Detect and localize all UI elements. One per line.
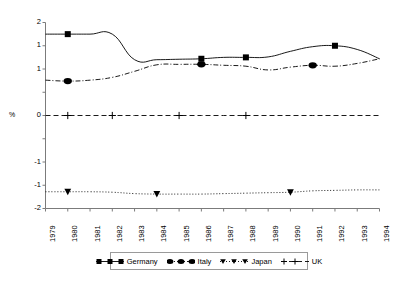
chart-figure: % 2110-1-1-2 197919801981198219831984198… — [0, 0, 409, 284]
x-axis-tick-label: 1983 — [138, 225, 146, 242]
y-axis-tick-label: -1 — [20, 181, 41, 189]
legend-entry-japan: Japan — [220, 257, 271, 266]
series-marker-italy — [197, 61, 205, 67]
x-axis-tick-label: 1980 — [71, 225, 79, 242]
legend-marker-circle-icon — [167, 257, 195, 266]
series-line-japan — [46, 190, 380, 194]
legend-marker-plus-icon — [281, 257, 309, 266]
legend-entry-italy: Italy — [167, 257, 212, 266]
y-axis-tick-label: 2 — [20, 18, 41, 26]
legend-key-graphic — [281, 257, 309, 266]
x-axis-tick-label: 1979 — [49, 225, 57, 242]
series-marker-germany — [332, 43, 338, 49]
legend-entry-uk: UK — [281, 257, 322, 266]
x-axis-tick-label: 1984 — [160, 225, 168, 242]
x-axis-tick-label: 1988 — [249, 225, 257, 242]
x-axis-tick-label: 1990 — [294, 225, 302, 242]
x-axis-tick-label: 1982 — [116, 225, 124, 242]
legend-label: UK — [311, 257, 322, 266]
legend-label: Italy — [197, 257, 212, 266]
x-axis-tick-label: 1987 — [227, 225, 235, 242]
series-marker-japan — [153, 191, 160, 197]
y-axis-tick-label: -2 — [20, 204, 41, 212]
y-axis-tick-label: 0 — [20, 111, 41, 119]
chart-legend: GermanyItalyJapanUK — [110, 252, 308, 270]
y-axis-tick-label: 1 — [20, 65, 41, 73]
series-marker-germany — [65, 31, 71, 37]
legend-label: Japan — [250, 257, 271, 266]
series-marker-germany — [243, 54, 249, 60]
legend-key-graphic — [220, 257, 248, 266]
series-line-italy — [46, 59, 380, 81]
series-marker-italy — [64, 78, 72, 84]
legend-entry-germany: Germany — [96, 257, 158, 266]
x-axis-tick-label: 1981 — [94, 225, 102, 242]
x-axis-tick-label: 1989 — [272, 225, 280, 242]
x-axis-tick-label: 1994 — [383, 225, 391, 242]
legend-marker-square-icon — [96, 257, 124, 266]
legend-marker-triangle-down-icon — [220, 257, 248, 266]
legend-key-graphic — [96, 257, 124, 266]
legend-key-graphic — [167, 257, 195, 266]
x-axis-tick-label: 1986 — [205, 225, 213, 242]
series-marker-germany — [198, 56, 204, 62]
series-line-germany — [46, 32, 380, 63]
y-axis-tick-label: 1 — [20, 41, 41, 49]
x-axis-tick-label: 1985 — [183, 225, 191, 242]
y-axis-tick-label: -1 — [20, 158, 41, 166]
x-axis-tick-label: 1991 — [316, 225, 324, 242]
x-axis-tick-label: 1993 — [361, 225, 369, 242]
series-marker-italy — [309, 62, 317, 68]
legend-label: Germany — [126, 257, 158, 266]
x-axis-tick-label: 1992 — [338, 225, 346, 242]
series-marker-japan — [287, 189, 294, 195]
